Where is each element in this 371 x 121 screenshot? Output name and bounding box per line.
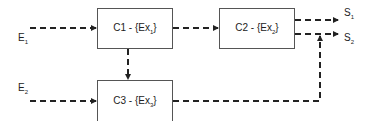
block-c2: C2 - {Ex2} [219, 8, 295, 49]
input-e2-label: E2 [18, 83, 28, 95]
block-c1: C1 - {Ex1} [97, 8, 173, 49]
diagram-connectors [0, 0, 371, 121]
input-e1-label: E1 [18, 33, 28, 45]
block-c3: C3 - {Ex3} [97, 80, 173, 121]
output-s1-label: S1 [344, 8, 354, 20]
block-c2-label: C2 - {Ex2} [235, 22, 278, 35]
block-c3-label: C3 - {Ex3} [113, 95, 156, 108]
block-c1-label: C1 - {Ex1} [113, 22, 156, 35]
output-s2-label: S2 [344, 33, 354, 45]
